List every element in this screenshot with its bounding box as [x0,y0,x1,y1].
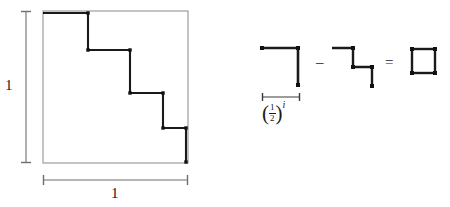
horizontal-dimension-label: 1 [111,186,119,201]
fraction-numerator: 1 [269,103,276,112]
corner-node [370,65,374,69]
staircase-figure: 1 1 (12)i – = [0,0,450,207]
staircase-polyline [43,13,186,162]
equals-operator: = [385,55,393,70]
minus-operator: – [316,55,324,70]
corner-node [296,46,300,50]
horizontal-dimension-ruler [43,175,188,185]
measure-bar [262,93,300,101]
corner-node [351,46,355,50]
corner-node [260,46,264,50]
corner-node [184,160,187,163]
right-panel-group [260,46,437,101]
corner-node [433,47,437,51]
corner-node [128,91,131,94]
corner-node [161,91,164,94]
unit-square-outline [43,11,188,163]
elbow-shape-nodes [260,46,300,87]
corner-node [296,83,300,87]
corner-node [86,11,89,14]
corner-node [184,126,187,129]
corner-node [161,126,164,129]
staircase-corner-nodes [86,11,187,163]
exponent-i: i [283,99,286,110]
corner-node [128,48,131,51]
corner-node [370,84,374,88]
corner-node [351,65,355,69]
result-square-nodes [410,47,437,75]
fraction-denominator: 2 [269,113,276,123]
figure-canvas [0,0,450,207]
elbow-shape-polyline [262,48,298,85]
corner-node [86,48,89,51]
open-paren: ( [262,101,269,125]
corner-node [410,71,414,75]
vertical-dimension-ruler [21,11,31,163]
left-panel-group [21,11,188,185]
close-paren: ) [276,101,283,125]
half-power-label: (12)i [262,103,285,124]
corner-node [410,47,414,51]
vertical-dimension-label: 1 [5,78,13,93]
one-half-fraction: 12 [269,103,276,123]
corner-node [433,71,437,75]
result-small-square [412,49,435,73]
